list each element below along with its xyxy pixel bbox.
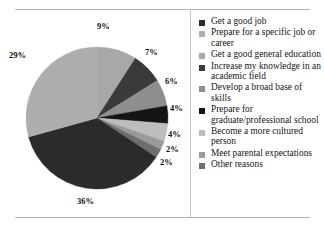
legend-swatch-icon <box>199 53 205 59</box>
legend-item-label: Get a good general education <box>211 49 321 60</box>
legend-item-label: Become a more cultured person <box>211 126 321 148</box>
pie-label-29: 29% <box>9 50 26 60</box>
pie-label-4b: 4% <box>168 129 181 139</box>
legend-item[interactable]: Get a good job <box>199 16 321 27</box>
legend-swatch-icon <box>199 65 205 71</box>
pie-chart-figure: 9% 7% 6% 4% 4% 2% 2% 36% 29% Get a good … <box>0 0 324 232</box>
legend-item-label: Meet parental expectations <box>211 148 312 159</box>
legend-item-label: Other reasons <box>211 159 263 170</box>
legend-item[interactable]: Prepare for graduate/professional school <box>199 104 321 126</box>
legend-swatch-icon <box>199 86 205 92</box>
legend-item-label: Prepare for graduate/professional school <box>211 104 321 126</box>
chart-legend-divider <box>190 10 191 217</box>
pie-label-36: 36% <box>77 196 94 206</box>
pie-panel: 9% 7% 6% 4% 4% 2% 2% 36% 29% <box>0 10 190 217</box>
legend-item-label: Increase my knowledge in an academic fie… <box>211 61 321 83</box>
pie-slices <box>26 47 168 189</box>
pie-label-2b: 2% <box>160 157 173 167</box>
legend-swatch-icon <box>199 130 205 136</box>
legend-swatch-icon <box>199 163 205 169</box>
legend-item[interactable]: Get a good general education <box>199 49 321 60</box>
pie-label-2a: 2% <box>166 144 179 154</box>
legend-item-label: Prepare for a specific job or career <box>211 27 321 49</box>
pie-label-7: 7% <box>145 47 158 57</box>
legend-item-label: Develop a broad base of skills <box>211 82 321 104</box>
legend-swatch-icon <box>199 31 205 37</box>
legend-item[interactable]: Other reasons <box>199 159 321 170</box>
pie-svg <box>0 10 190 217</box>
legend-swatch-icon <box>199 108 205 114</box>
chart-legend: Get a good jobPrepare for a specific job… <box>199 16 321 171</box>
legend-item[interactable]: Develop a broad base of skills <box>199 82 321 104</box>
pie-label-9: 9% <box>97 21 110 31</box>
legend-item[interactable]: Become a more cultured person <box>199 126 321 148</box>
pie-label-4a: 4% <box>170 103 183 113</box>
legend-item-label: Get a good job <box>211 16 266 27</box>
legend-item[interactable]: Increase my knowledge in an academic fie… <box>199 61 321 83</box>
legend-item[interactable]: Prepare for a specific job or career <box>199 27 321 49</box>
legend-item[interactable]: Meet parental expectations <box>199 148 321 159</box>
pie-label-6: 6% <box>165 76 178 86</box>
legend-swatch-icon <box>199 20 205 26</box>
bottom-horizontal-rule <box>15 217 310 218</box>
legend-swatch-icon <box>199 152 205 158</box>
